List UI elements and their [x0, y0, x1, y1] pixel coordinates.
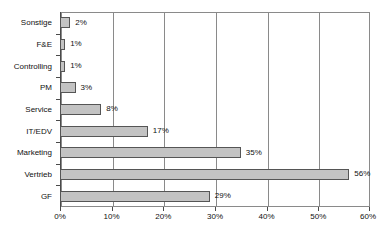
y-axis-label-sonstige: Sonstige — [0, 12, 56, 34]
bar-value-marketing: 35% — [246, 149, 262, 157]
x-axis-label-0: 0% — [54, 212, 66, 221]
bar-value-controlling: 1% — [70, 62, 82, 70]
bar-pm — [60, 82, 76, 93]
bar-value-fe: 1% — [70, 40, 82, 48]
y-axis-label-vertrieb: Vertrieb — [0, 164, 56, 186]
x-axis-labels: 0% 10% 20% 30% 40% 50% 60% — [0, 212, 387, 226]
y-axis-label-it-edv: IT/EDV — [0, 120, 56, 142]
y-axis-label-service: Service — [0, 99, 56, 121]
x-tick-60 — [369, 207, 370, 211]
bar-it-edv — [60, 126, 148, 137]
x-tick-50 — [318, 207, 319, 211]
bar-vertrieb — [60, 169, 349, 180]
x-tick-0 — [60, 207, 61, 211]
x-axis-ticks — [60, 207, 370, 211]
bar-service — [60, 104, 101, 115]
bar-row: 17% — [60, 120, 370, 142]
bar-chart: Sonstige F&E Controlling PM Service IT/E… — [0, 0, 387, 238]
x-tick-40 — [267, 207, 268, 211]
bar-row: 1% — [60, 55, 370, 77]
bar-row: 1% — [60, 34, 370, 56]
y-axis-label-marketing: Marketing — [0, 142, 56, 164]
bar-row: 56% — [60, 164, 370, 186]
bar-gf — [60, 191, 210, 202]
bar-value-pm: 3% — [81, 84, 93, 92]
bar-fe — [60, 39, 65, 50]
bar-value-gf: 29% — [215, 192, 231, 200]
x-tick-10 — [112, 207, 113, 211]
bar-sonstige — [60, 17, 70, 28]
x-tick-30 — [215, 207, 216, 211]
x-axis-label-50: 50% — [310, 212, 326, 221]
bar-row: 29% — [60, 185, 370, 207]
x-tick-20 — [163, 207, 164, 211]
bar-value-sonstige: 2% — [75, 19, 87, 27]
y-axis-label-controlling: Controlling — [0, 55, 56, 77]
x-axis-label-30: 30% — [207, 212, 223, 221]
bar-value-vertrieb: 56% — [354, 170, 370, 178]
bar-row: 3% — [60, 77, 370, 99]
bar-value-it-edv: 17% — [153, 127, 169, 135]
y-axis-label-pm: PM — [0, 77, 56, 99]
x-axis-label-20: 20% — [155, 212, 171, 221]
bar-row: 35% — [60, 142, 370, 164]
y-axis-label-gf: GF — [0, 185, 56, 207]
bar-controlling — [60, 61, 65, 72]
x-axis-label-10: 10% — [104, 212, 120, 221]
x-axis-label-40: 40% — [259, 212, 275, 221]
y-axis-label-fe: F&E — [0, 34, 56, 56]
bar-series: 2% 1% 1% 3% 8% 17% 35% 56% — [60, 12, 370, 207]
bar-row: 8% — [60, 99, 370, 121]
bar-row: 2% — [60, 12, 370, 34]
y-axis-labels: Sonstige F&E Controlling PM Service IT/E… — [0, 12, 56, 207]
bar-marketing — [60, 147, 241, 158]
bar-value-service: 8% — [106, 105, 118, 113]
x-axis-label-60: 60% — [360, 212, 376, 221]
